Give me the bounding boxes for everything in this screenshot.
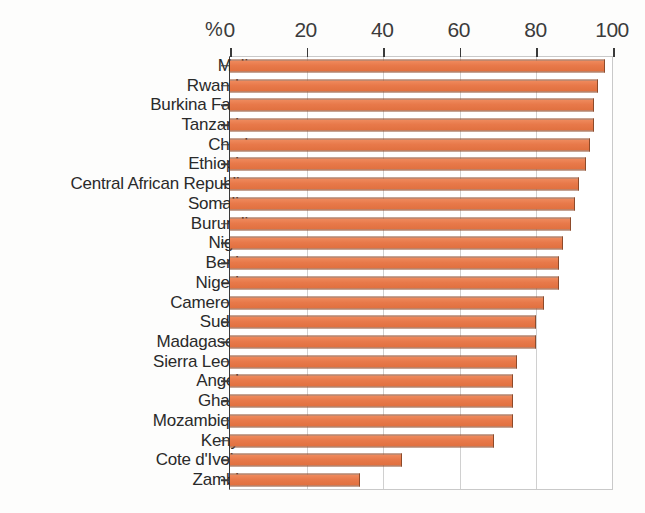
bar-benin <box>230 257 559 270</box>
bar-sierra-leone <box>230 355 517 368</box>
bar-cameroon <box>230 296 544 309</box>
bar-nigeria <box>230 276 559 289</box>
y-axis-tick <box>221 440 229 442</box>
bar-row: Sudan <box>0 312 645 332</box>
y-axis-tick <box>221 203 229 205</box>
y-axis-tick <box>221 341 229 343</box>
bar-angola <box>230 375 513 388</box>
bar-row: Tanzania <box>0 115 645 135</box>
bar-row: Central African Republic <box>0 174 645 194</box>
bar-zambia <box>230 474 360 487</box>
bar-row: Cameroon <box>0 293 645 313</box>
bar-row: Zambia <box>0 470 645 490</box>
bar-row: Chad <box>0 135 645 155</box>
bar-somalia <box>230 197 575 210</box>
bar-tanzania <box>230 119 594 132</box>
bar-mozambique <box>230 414 513 427</box>
x-axis-tick-label-0: 0 <box>223 18 234 42</box>
bar-cote-d-ivoire <box>230 454 402 467</box>
y-axis-tick <box>221 124 229 126</box>
bar-row: Kenya <box>0 431 645 451</box>
bar-row: Rwanda <box>0 76 645 96</box>
x-axis-labels: % 020406080100 <box>0 18 645 50</box>
y-axis-tick <box>221 164 229 166</box>
bar-burkina-faso <box>230 99 594 112</box>
bar-row: Sierra Leone <box>0 352 645 372</box>
y-axis-tick <box>221 243 229 245</box>
bar-niger <box>230 237 563 250</box>
bar-madagascar <box>230 336 536 349</box>
x-axis-tick-label-60: 60 <box>448 18 470 42</box>
y-axis-tick <box>221 282 229 284</box>
bar-row: Niger <box>0 234 645 254</box>
y-axis-tick <box>221 223 229 225</box>
bar-sudan <box>230 316 536 329</box>
bar-rows: MaliRwandaBurkina FasoTanzaniaChadEthiop… <box>0 56 645 490</box>
bar-kenya <box>230 434 494 447</box>
bar-row: Madagascar <box>0 332 645 352</box>
bar-row: Benin <box>0 253 645 273</box>
bar-row: Mozambique <box>0 411 645 431</box>
y-axis-tick <box>221 65 229 67</box>
bar-ethiopia <box>230 158 586 171</box>
percent-unit-label: % <box>205 18 223 41</box>
horizontal-bar-chart: % 020406080100 MaliRwandaBurkina FasoTan… <box>0 0 645 513</box>
y-axis-tick <box>221 361 229 363</box>
x-axis-tick-label-40: 40 <box>371 18 393 42</box>
y-axis-tick <box>221 85 229 87</box>
bar-ghana <box>230 395 513 408</box>
y-axis-tick <box>221 322 229 324</box>
bar-central-african-republic <box>230 178 579 191</box>
y-axis-tick <box>221 381 229 383</box>
y-axis-tick <box>221 479 229 481</box>
y-axis-tick <box>221 302 229 304</box>
bar-row: Ethiopia <box>0 155 645 175</box>
bar-row: Ghana <box>0 391 645 411</box>
y-axis-tick <box>221 144 229 146</box>
x-axis-tick-label-100: 100 <box>595 18 629 42</box>
bar-burundi <box>230 217 571 230</box>
bar-row: Nigeria <box>0 273 645 293</box>
bar-row: Burkina Faso <box>0 95 645 115</box>
bar-chad <box>230 138 590 151</box>
bar-row: Angola <box>0 372 645 392</box>
y-axis-tick <box>221 183 229 185</box>
y-axis-tick <box>221 460 229 462</box>
bar-mali <box>230 59 605 72</box>
y-axis-tick <box>221 420 229 422</box>
bar-row: Burundi <box>0 214 645 234</box>
bar-row: Somalia <box>0 194 645 214</box>
bar-rwanda <box>230 79 598 92</box>
y-axis-tick <box>221 105 229 107</box>
y-axis-tick <box>221 262 229 264</box>
x-axis-tick-label-80: 80 <box>524 18 546 42</box>
bar-row: Mali <box>0 56 645 76</box>
x-axis-tick-label-20: 20 <box>294 18 316 42</box>
y-axis-tick <box>221 400 229 402</box>
bar-row: Cote d'Ivoire <box>0 451 645 471</box>
